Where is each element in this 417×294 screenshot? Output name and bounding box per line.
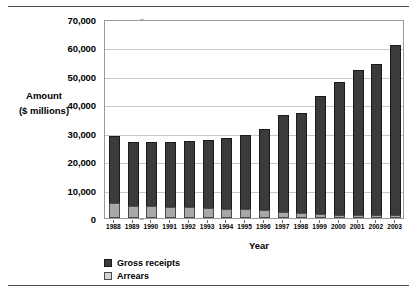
x-axis-tick-1994: 1994	[219, 223, 234, 230]
x-axis-tick-mark	[169, 220, 170, 223]
bar-2001[interactable]	[353, 70, 364, 218]
bar-1996[interactable]	[259, 129, 270, 218]
bar-segment-arrears-1998	[296, 213, 307, 218]
bar-segment-gross-receipts-1994	[221, 138, 232, 209]
x-axis-tick-mark	[113, 220, 114, 223]
x-axis-tick-mark	[150, 220, 151, 223]
x-axis-tick-1993: 1993	[200, 223, 215, 230]
legend-label-arrears: Arrears	[117, 271, 149, 281]
x-axis-tick-mark	[357, 220, 358, 223]
bar-segment-gross-receipts-2002	[371, 64, 382, 215]
bar-2000[interactable]	[334, 82, 345, 218]
bar-segment-arrears-1991	[165, 207, 176, 218]
bar-segment-arrears-1993	[203, 208, 214, 218]
bar-segment-gross-receipts-1989	[128, 142, 139, 205]
bar-1991[interactable]	[165, 142, 176, 218]
bar-segment-arrears-1992	[184, 207, 195, 218]
x-axis-tick-1995: 1995	[237, 223, 252, 230]
x-axis-tick-2001: 2001	[350, 223, 365, 230]
x-axis-tick-mark	[188, 220, 189, 223]
x-axis-tick-1991: 1991	[162, 223, 177, 230]
x-axis-tick-mark	[244, 220, 245, 223]
bar-segment-gross-receipts-1988	[109, 136, 120, 203]
x-axis-tick-1997: 1997	[275, 223, 290, 230]
bar-1997[interactable]	[278, 115, 289, 218]
bar-segment-arrears-1994	[221, 209, 232, 218]
legend-swatch-arrears	[104, 272, 112, 280]
bar-1989[interactable]	[128, 142, 139, 218]
bar-segment-gross-receipts-1999	[315, 96, 326, 215]
chart-figure: Amount ($ millions) 010,00020,00030,0004…	[0, 0, 417, 294]
x-axis-tick-mark	[207, 220, 208, 223]
bar-segment-arrears-1988	[109, 203, 120, 218]
bar-1990[interactable]	[146, 142, 157, 218]
x-axis-title: Year	[229, 240, 289, 251]
x-axis-tick-mark	[375, 220, 376, 223]
plot-area	[104, 20, 404, 219]
x-axis-tick-2002: 2002	[369, 223, 384, 230]
bar-2002[interactable]	[371, 64, 382, 218]
bar-segment-gross-receipts-1990	[146, 142, 157, 207]
y-axis-tick-20000: 20,000	[68, 157, 96, 168]
bar-segment-arrears-2002	[371, 215, 382, 218]
y-axis-tick-10000: 10,000	[68, 185, 96, 196]
legend-item-arrears[interactable]: Arrears	[104, 269, 180, 282]
bar-segment-arrears-1997	[278, 212, 289, 218]
bottom-divider-rule	[8, 285, 409, 286]
x-axis-tick-2003: 2003	[387, 223, 402, 230]
x-axis-tick-1996: 1996	[256, 223, 271, 230]
bar-segment-arrears-1996	[259, 210, 270, 218]
x-axis-tick-2000: 2000	[331, 223, 346, 230]
bar-1999[interactable]	[315, 96, 326, 218]
y-axis-tick-70000: 70,000	[68, 15, 96, 26]
x-axis-tick-1998: 1998	[294, 223, 309, 230]
top-divider-rule	[8, 6, 409, 7]
x-axis-tick-mark	[338, 220, 339, 223]
bar-segment-arrears-1999	[315, 214, 326, 218]
bar-1992[interactable]	[184, 141, 195, 218]
legend-swatch-gross-receipts	[104, 259, 112, 267]
x-axis-tick-mark	[225, 220, 226, 223]
y-axis-tick-40000: 40,000	[68, 100, 96, 111]
bar-segment-gross-receipts-2001	[353, 70, 364, 215]
bar-2003[interactable]	[390, 45, 401, 218]
x-axis-tick-mark	[263, 220, 264, 223]
y-axis-tick-30000: 30,000	[68, 128, 96, 139]
x-axis-tick-1989: 1989	[125, 223, 140, 230]
y-axis-tick-0: 0	[91, 214, 96, 225]
bar-segment-arrears-1989	[128, 206, 139, 219]
bar-1995[interactable]	[240, 135, 251, 218]
bar-segment-gross-receipts-1991	[165, 142, 176, 207]
x-axis-tick-1992: 1992	[181, 223, 196, 230]
x-axis-tick-1999: 1999	[312, 223, 327, 230]
bar-segment-gross-receipts-1993	[203, 140, 214, 208]
bar-1998[interactable]	[296, 113, 307, 218]
chart-legend: Gross receipts Arrears	[104, 256, 180, 282]
bar-1988[interactable]	[109, 136, 120, 218]
bar-segment-gross-receipts-1997	[278, 115, 289, 212]
gridline	[105, 49, 403, 50]
y-axis-tick-50000: 50,000	[68, 71, 96, 82]
x-axis-tick-mark	[394, 220, 395, 223]
bar-segment-gross-receipts-1998	[296, 113, 307, 213]
bar-segment-arrears-2000	[334, 215, 345, 218]
y-axis-tick-60000: 60,000	[68, 43, 96, 54]
x-axis-tick-mark	[132, 220, 133, 223]
legend-item-gross-receipts[interactable]: Gross receipts	[104, 256, 180, 269]
bar-segment-gross-receipts-1995	[240, 135, 251, 209]
y-axis-tick-labels: 010,00020,00030,00040,00050,00060,00070,…	[40, 20, 100, 219]
bar-segment-arrears-2001	[353, 215, 364, 218]
bar-segment-gross-receipts-2000	[334, 82, 345, 214]
bar-segment-arrears-1995	[240, 209, 251, 218]
legend-label-gross-receipts: Gross receipts	[117, 258, 180, 268]
x-axis-tick-mark	[282, 220, 283, 223]
bar-segment-gross-receipts-1996	[259, 129, 270, 209]
bar-1993[interactable]	[203, 140, 214, 218]
bar-1994[interactable]	[221, 138, 232, 218]
x-axis-tick-mark	[300, 220, 301, 223]
x-axis-tick-1990: 1990	[144, 223, 159, 230]
x-axis-tick-labels: 1988198919901991199219931994199519961997…	[104, 221, 404, 235]
bar-segment-gross-receipts-2003	[390, 45, 401, 215]
x-axis-tick-mark	[319, 220, 320, 223]
bar-segment-arrears-2003	[390, 215, 401, 218]
